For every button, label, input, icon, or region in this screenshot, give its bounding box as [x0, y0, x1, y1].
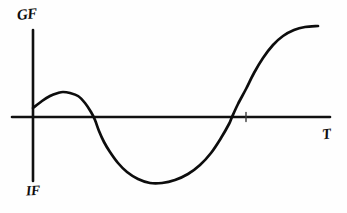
- sketch-figure: GF IF T: [0, 0, 347, 213]
- sketch-canvas: [0, 0, 347, 213]
- axes-group: [12, 30, 330, 181]
- y-axis-top-label: GF: [16, 6, 37, 23]
- y-axis-bottom-label: IF: [26, 184, 41, 199]
- curve-group: [33, 26, 318, 183]
- free-energy-curve: [33, 26, 318, 183]
- x-axis-right-label: T: [321, 126, 332, 142]
